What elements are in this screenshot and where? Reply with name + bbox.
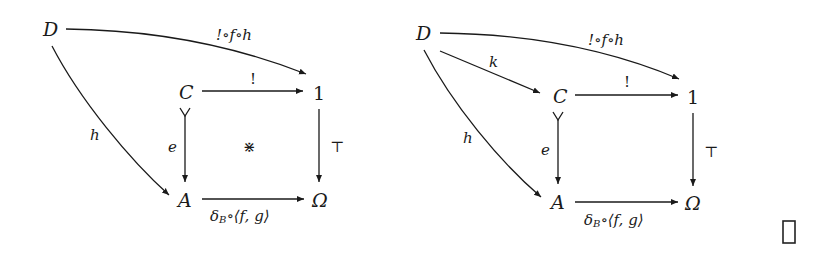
label-1-to-Omega: ⊤ bbox=[704, 143, 718, 161]
label-D-to-A: h bbox=[463, 129, 473, 147]
mono-tail-icon bbox=[180, 108, 190, 116]
label-D-to-1: !∘f∘h bbox=[216, 26, 252, 44]
label-1-to-Omega: ⊤ bbox=[330, 138, 344, 156]
node-terminal-1: 1 bbox=[687, 86, 699, 108]
node-C: C bbox=[179, 81, 194, 103]
label-D-to-A: h bbox=[90, 126, 100, 144]
label-D-to-1: !∘f∘h bbox=[588, 31, 624, 49]
label-C-to-A: e bbox=[168, 138, 177, 156]
arrow-D-to-1 bbox=[66, 29, 306, 74]
label-D-to-C: k bbox=[489, 53, 498, 71]
label-A-to-Omega: δB∘⟨f, g⟩ bbox=[584, 211, 644, 229]
label-C-to-1: ! bbox=[250, 70, 256, 88]
label-C-to-1: ! bbox=[624, 73, 630, 91]
arrow-D-to-A bbox=[52, 46, 169, 195]
label-A-to-Omega: δB∘⟨f, g⟩ bbox=[210, 207, 270, 225]
mono-tail-icon bbox=[553, 112, 563, 120]
node-D: D bbox=[42, 18, 58, 40]
node-A: A bbox=[549, 191, 565, 213]
end-of-proof-icon bbox=[783, 221, 795, 243]
node-Omega: Ω bbox=[311, 189, 328, 211]
label-C-to-A: e bbox=[541, 141, 550, 159]
node-A: A bbox=[176, 189, 192, 211]
arrow-D-to-A bbox=[424, 50, 541, 197]
arrow-D-to-1 bbox=[440, 33, 679, 79]
pullback-mark-icon: ⋇ bbox=[243, 138, 256, 156]
node-Omega: Ω bbox=[684, 192, 701, 214]
node-C: C bbox=[553, 85, 568, 107]
commutative-diagrams: D C 1 A Ω !∘f∘h ! e ⊤ δB∘⟨f, g⟩ h ⋇ D C … bbox=[0, 0, 835, 258]
diagram-right: D C 1 A Ω !∘f∘h k ! e ⊤ δB∘⟨f, g⟩ h bbox=[415, 22, 718, 229]
node-terminal-1: 1 bbox=[313, 82, 325, 104]
node-D: D bbox=[415, 22, 431, 44]
diagram-left: D C 1 A Ω !∘f∘h ! e ⊤ δB∘⟨f, g⟩ h ⋇ bbox=[42, 18, 344, 225]
